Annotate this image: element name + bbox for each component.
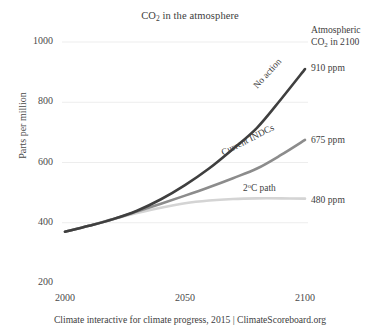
curve-label-2c-suffix: C path — [251, 183, 276, 193]
chart-caption: Climate interactive for climate progress… — [0, 314, 380, 325]
annotation-header: Atmospheric CO2 in 2100 — [311, 24, 380, 49]
annotation-header-line2-suffix: in 2100 — [328, 36, 359, 47]
y-tick-label-1000: 1000 — [13, 35, 53, 46]
y-tick-label-200: 200 — [13, 276, 53, 287]
end-label-no-action: 910 ppm — [311, 62, 345, 73]
x-tick-label-2100: 2100 — [275, 292, 335, 303]
curve-label-2c-path: 2oC path — [243, 183, 276, 193]
annotation-header-subscript: 2 — [324, 41, 328, 49]
curve-label-degree-icon: o — [248, 182, 251, 189]
series-curves-group — [65, 69, 305, 232]
end-label-current-indcs: 675 ppm — [311, 134, 345, 145]
series-line-no-action — [65, 69, 305, 232]
annotation-header-line2-prefix: CO — [311, 36, 324, 47]
x-tick-label-2050: 2050 — [155, 292, 215, 303]
annotation-header-line1: Atmospheric — [311, 24, 361, 35]
chart-plot-area — [0, 0, 380, 332]
end-label-2c-path: 480 ppm — [311, 194, 345, 205]
y-tick-label-400: 400 — [13, 216, 53, 227]
chart-figure: CO2 in the atmosphere 2004006008001000 2… — [0, 0, 380, 332]
curve-label-2c-prefix: 2 — [243, 183, 248, 193]
x-tick-label-2000: 2000 — [35, 292, 95, 303]
y-axis-title: Parts per million — [17, 71, 28, 181]
series-line-2-c-path — [65, 198, 305, 231]
